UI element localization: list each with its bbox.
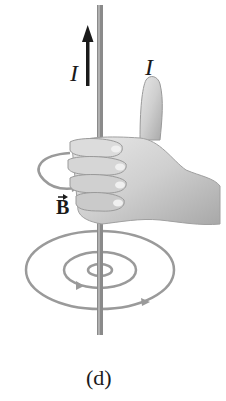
current-label: I — [70, 60, 78, 87]
current-arrow-icon — [82, 25, 94, 86]
magnetic-field-label: B — [56, 196, 69, 219]
hand-illustration — [68, 77, 220, 225]
figure-drawing — [0, 0, 226, 401]
thumb-current-label: I — [145, 54, 153, 81]
right-hand-rule-figure: I I B (d) — [0, 0, 226, 401]
figure-caption: (d) — [86, 365, 112, 391]
